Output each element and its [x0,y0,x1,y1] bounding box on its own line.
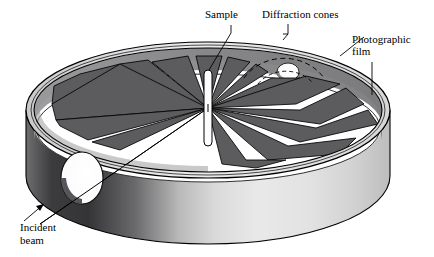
label-photographic-film-line2: film [352,45,370,58]
label-incident-beam-line2: beam [20,234,44,247]
label-incident-beam-line1: Incident [20,221,56,234]
label-sample: Sample [205,8,238,21]
label-photographic-film-line1: Photographic [352,33,411,46]
diffraction-camera-figure: Sample Diffraction cones Photographic fi… [0,0,434,257]
label-diffraction-cones: Diffraction cones [262,8,338,21]
diffraction-cones-leader-line [283,24,288,40]
sample-rod [204,70,212,146]
